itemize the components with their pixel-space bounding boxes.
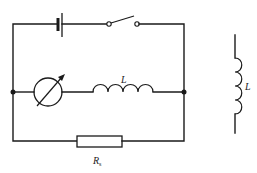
- inductor-icon: [93, 85, 153, 93]
- battery-icon: [58, 13, 62, 37]
- galvanometer-icon: [34, 74, 65, 106]
- standalone-inductor-icon: [235, 58, 242, 114]
- top-branch: [13, 13, 184, 92]
- wire-switch-right: [139, 24, 184, 92]
- inductor-label: L: [120, 74, 127, 85]
- wire-left-top: [13, 24, 57, 92]
- wire-left-bottom: [13, 92, 77, 141]
- middle-branch: L: [13, 74, 184, 106]
- switch-icon: [107, 16, 139, 26]
- resistor-label: Rs: [92, 155, 102, 167]
- standalone-inductor-label: L: [244, 81, 251, 92]
- circuit-diagram: L Rs L: [0, 0, 257, 173]
- standalone-inductor: L: [235, 35, 251, 133]
- wire-right-bottom: [122, 92, 184, 141]
- resistor-icon: [77, 136, 122, 147]
